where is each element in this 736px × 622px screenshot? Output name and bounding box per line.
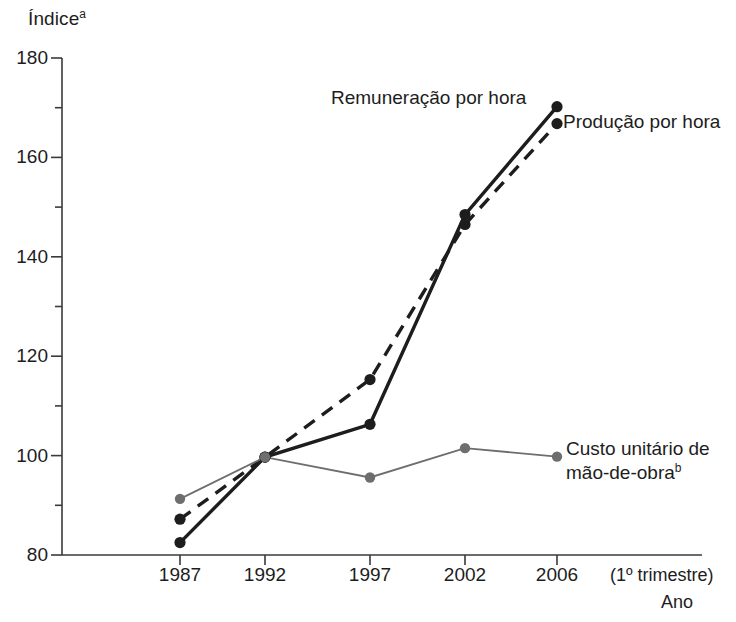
chart-container: Índicea 180 160 140 120 100 80 1987 1992… [0,0,736,622]
data-point-0-2 [364,419,375,430]
x-axis-ticks [180,555,557,565]
data-point-0-0 [174,537,185,548]
data-point-2-0 [175,494,185,504]
data-point-0-4 [551,101,562,112]
data-point-2-3 [460,443,470,453]
data-point-1-0 [174,514,185,525]
plot-area [0,0,736,622]
data-point-2-2 [365,472,375,482]
data-point-1-2 [364,374,375,385]
data-point-1-3 [459,219,470,230]
series-line-1 [180,124,557,520]
data-point-2-1 [260,452,270,462]
y-axis-ticks [51,58,62,555]
data-point-0-3 [459,209,470,220]
data-point-1-4 [551,118,562,129]
